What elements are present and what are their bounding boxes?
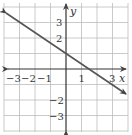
y-tick-minus2: −2 [49, 95, 64, 106]
x-axis-label: x [119, 72, 126, 85]
x-tick-minus1: −1 [37, 73, 52, 84]
graph-canvas: −3 −2 −1 1 3 x 3 2 −2 −3 y [0, 0, 132, 135]
y-tick-3: 3 [56, 17, 62, 28]
x-tick-3: 3 [109, 73, 115, 84]
x-tick-minus2: −2 [21, 73, 36, 84]
y-tick-2: 2 [56, 33, 62, 44]
x-tick-1: 1 [79, 73, 85, 84]
coordinate-graph: −3 −2 −1 1 3 x 3 2 −2 −3 y [0, 0, 132, 135]
y-axis-label: y [69, 5, 77, 18]
y-tick-minus3: −3 [49, 111, 64, 122]
x-tick-minus3: −3 [6, 73, 21, 84]
